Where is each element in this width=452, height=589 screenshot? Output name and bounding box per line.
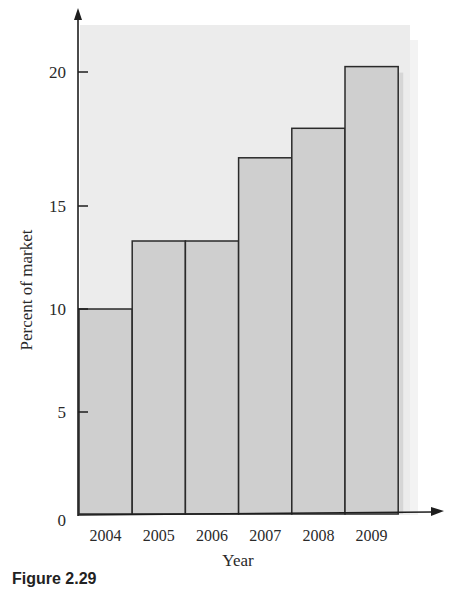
bar-2005 [132,241,185,514]
y-tick-label: 10 [49,300,66,319]
bar-2007 [239,158,292,514]
figure-caption: Figure 2.29 [12,570,96,588]
x-axis-label: Year [222,551,254,570]
x-tick-labels-group: 200420052006200720082009 [90,527,388,544]
bar-shadow [399,73,403,514]
x-tick-label: 2009 [356,527,388,544]
bar-2006 [185,241,238,514]
x-tick-label: 2007 [249,527,281,544]
plot-background-shadow [410,40,418,515]
x-tick-label: 2005 [143,527,175,544]
y-tick-label: 0 [58,511,67,530]
y-tick-label: 20 [49,63,66,82]
bar-2009 [345,67,398,514]
y-tick-label: 15 [49,197,66,216]
y-axis-label: Percent of market [17,229,36,350]
y-axis-arrow-icon [74,8,82,20]
bar-2008 [292,128,345,514]
x-tick-label: 2008 [302,527,334,544]
x-axis-arrow-icon [431,507,444,516]
x-tick-label: 2004 [90,527,122,544]
x-tick-label: 2006 [196,527,228,544]
y-tick-label: 5 [58,403,67,422]
